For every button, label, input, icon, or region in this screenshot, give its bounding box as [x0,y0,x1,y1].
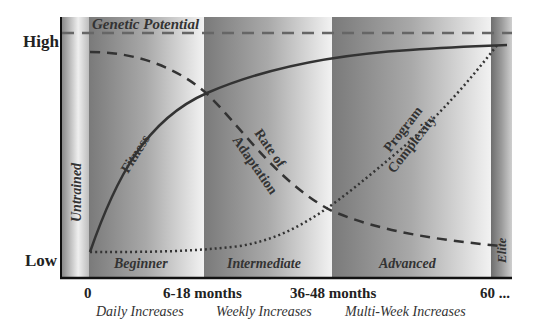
x-sub-weekly: Weekly Increases [216,304,312,320]
stage-elite-label: Elite [494,237,509,264]
x-tick-36-48: 36-48 months [290,285,376,302]
x-tick-60: 60 ... [480,285,510,302]
stage-advanced-label: Advanced [378,256,437,271]
y-label-low: Low [25,251,57,271]
band-untrained [62,17,89,277]
x-tick-0: 0 [84,285,92,302]
stage-untrained-label: Untrained [69,162,84,222]
x-tick-6-18: 6-18 months [163,285,242,302]
y-label-high: High [23,32,59,52]
training-progression-diagram: Genetic Potential Fitness Rate of Adapta… [0,0,540,334]
stage-beginner-label: Beginner [113,256,168,271]
genetic-potential-label: Genetic Potential [92,16,200,32]
x-sub-daily: Daily Increases [96,304,184,320]
x-sub-multiweek: Multi-Week Increases [345,304,466,320]
stage-intermediate-label: Intermediate [226,256,301,271]
